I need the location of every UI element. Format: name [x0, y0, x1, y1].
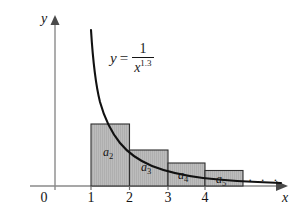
x-axis-label: x — [282, 190, 288, 206]
function-formula-annotation: y = 1 x1.3 — [110, 42, 154, 75]
x-tick-label-3: 3 — [160, 190, 176, 206]
rectangle-label-a5: a5 — [216, 172, 226, 188]
rectangle-label-a2: a2 — [103, 145, 113, 161]
rectangle-label-a4: a4 — [178, 168, 188, 184]
formula-fraction: 1 x1.3 — [132, 42, 153, 75]
rectangle-label-a3: a3 — [141, 160, 151, 176]
x-tick-label-2: 2 — [122, 190, 138, 206]
origin-label: 0 — [36, 190, 52, 206]
y-axis-label: y — [41, 11, 47, 27]
graph-svg — [0, 0, 300, 222]
formula-numerator: 1 — [135, 42, 150, 57]
formula-equals: = — [120, 50, 128, 67]
figure-canvas: y x 0 1 2 3 4 y = 1 x1.3 a2 a3 a4 a5 · ·… — [0, 0, 300, 222]
formula-denominator: x1.3 — [132, 58, 153, 75]
x-tick-label-1: 1 — [83, 190, 99, 206]
formula-lhs: y — [110, 50, 117, 67]
x-tick-label-4: 4 — [197, 190, 213, 206]
ellipsis-annotation: · · · — [248, 172, 280, 188]
y-axis-arrowhead — [51, 15, 60, 25]
formula-denominator-exponent: 1.3 — [140, 58, 151, 68]
